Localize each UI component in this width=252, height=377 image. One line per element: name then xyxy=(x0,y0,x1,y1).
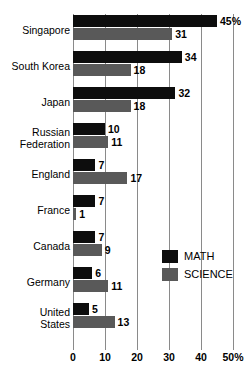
bar-fill-math xyxy=(73,267,92,279)
category-label: Canada xyxy=(0,241,70,253)
tick-mark-40 xyxy=(201,345,202,350)
bar-science: 13 xyxy=(73,316,115,328)
legend-swatch-math-icon xyxy=(162,250,178,263)
tick-label-40: 40 xyxy=(195,351,207,363)
legend-swatch-science-icon xyxy=(162,268,178,281)
bar-science: 11 xyxy=(73,136,108,148)
bar-fill-math xyxy=(73,87,175,99)
bar-value-label: 7 xyxy=(95,231,104,243)
tick-label-30: 30 xyxy=(163,351,175,363)
chart-row: South Korea3418 xyxy=(0,50,252,86)
legend-item-math: MATH xyxy=(162,247,233,265)
bar-math: 32 xyxy=(73,87,175,99)
chart-row: Japan3218 xyxy=(0,86,252,122)
bar-fill-science xyxy=(73,244,102,256)
tick-label-0: 0 xyxy=(70,351,76,363)
tick-label-50: 50% xyxy=(222,351,243,363)
bar-math: 34 xyxy=(73,51,182,63)
bar-math: 5 xyxy=(73,303,89,315)
tick-label-10: 10 xyxy=(99,351,111,363)
category-label: Germany xyxy=(0,277,70,289)
bar-science: 31 xyxy=(73,28,172,40)
bar-math: 7 xyxy=(73,195,95,207)
bar-value-label: 34 xyxy=(182,51,197,63)
chart-row: Singapore45%31 xyxy=(0,14,252,50)
bar-science: 18 xyxy=(73,64,131,76)
bar-science: 9 xyxy=(73,244,102,256)
horizontal-bar-chart: Singapore45%31South Korea3418Japan3218Ru… xyxy=(0,0,252,377)
bar-value-label: 6 xyxy=(92,267,101,279)
bar-value-label: 11 xyxy=(108,136,122,148)
category-label: United States xyxy=(0,307,70,330)
bar-fill-math xyxy=(73,159,95,171)
bar-science: 17 xyxy=(73,172,127,184)
chart-row: England717 xyxy=(0,158,252,194)
bar-value-label: 7 xyxy=(95,159,104,171)
bar-fill-math xyxy=(73,51,182,63)
bar-science: 1 xyxy=(73,208,76,220)
bar-value-label: 7 xyxy=(95,195,104,207)
tick-mark-10 xyxy=(105,345,106,350)
bar-value-label: 18 xyxy=(131,64,146,76)
tick-mark-0 xyxy=(73,345,74,350)
bar-fill-math xyxy=(73,195,95,207)
chart-row: France71 xyxy=(0,194,252,230)
bar-fill-math xyxy=(73,231,95,243)
legend-item-science: SCIENCE xyxy=(162,265,233,283)
bar-science: 11 xyxy=(73,280,108,292)
bar-value-label: 9 xyxy=(102,244,111,256)
legend-label-science: SCIENCE xyxy=(184,268,233,280)
bar-value-label: 13 xyxy=(115,316,130,328)
bar-value-label: 17 xyxy=(127,172,142,184)
bar-fill-science xyxy=(73,280,108,292)
bar-math: 7 xyxy=(73,231,95,243)
bar-fill-math xyxy=(73,15,217,27)
bar-math: 7 xyxy=(73,159,95,171)
category-label: Russian Federation xyxy=(0,127,70,150)
bar-value-label: 18 xyxy=(131,100,146,112)
bar-value-label: 11 xyxy=(108,280,122,292)
bar-fill-math xyxy=(73,303,89,315)
bar-value-label: 5 xyxy=(89,303,98,315)
bar-value-label: 32 xyxy=(175,87,190,99)
tick-label-20: 20 xyxy=(131,351,143,363)
bar-fill-science xyxy=(73,100,131,112)
chart-row: Russian Federation1011 xyxy=(0,122,252,158)
bar-value-label: 31 xyxy=(172,28,187,40)
bar-fill-science xyxy=(73,136,108,148)
bar-science: 18 xyxy=(73,100,131,112)
category-label: South Korea xyxy=(0,61,70,73)
bar-value-label: 45% xyxy=(217,15,241,27)
bar-value-label: 1 xyxy=(76,208,85,220)
x-axis: 01020304050% xyxy=(0,345,252,369)
bar-math: 10 xyxy=(73,123,105,135)
bar-fill-science xyxy=(73,172,127,184)
category-label: Singapore xyxy=(0,25,70,37)
chart-row: United States513 xyxy=(0,302,252,338)
bar-fill-science xyxy=(73,64,131,76)
legend-label-math: MATH xyxy=(184,250,214,262)
tick-mark-30 xyxy=(169,345,170,350)
category-label: France xyxy=(0,205,70,217)
chart-legend: MATH SCIENCE xyxy=(162,247,233,283)
bar-fill-science xyxy=(73,316,115,328)
bar-value-label: 10 xyxy=(105,123,120,135)
category-label: England xyxy=(0,169,70,181)
bar-math: 45% xyxy=(73,15,217,27)
bar-fill-science xyxy=(73,28,172,40)
tick-mark-20 xyxy=(137,345,138,350)
category-label: Japan xyxy=(0,97,70,109)
tick-mark-50 xyxy=(233,345,234,350)
bar-math: 6 xyxy=(73,267,92,279)
bar-fill-math xyxy=(73,123,105,135)
